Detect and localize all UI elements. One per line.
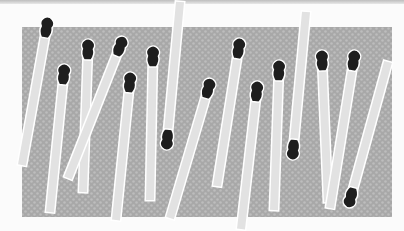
match-head-icon (160, 128, 175, 150)
match-head-icon (146, 46, 159, 67)
match-head-icon (81, 39, 95, 60)
match-head-icon (315, 50, 329, 71)
match-head-icon (122, 71, 137, 93)
match-head-icon (286, 138, 301, 160)
matches-illustration (0, 0, 404, 231)
match-head-icon (56, 63, 71, 85)
match-head-icon (272, 60, 286, 81)
